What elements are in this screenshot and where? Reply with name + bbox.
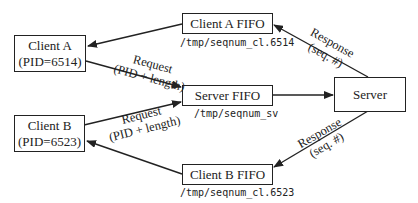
client-a-fifo-path: /tmp/seqnum_cl.6514 xyxy=(180,37,294,48)
client-a-fifo-title: Client A FIFO xyxy=(190,16,264,32)
client-a-title: Client A xyxy=(28,38,72,54)
arrow-clientbfifo-to-clientb xyxy=(87,141,182,174)
client-a-pid: (PID=6514) xyxy=(19,54,82,70)
server-fifo-path: /tmp/seqnum_sv xyxy=(194,108,278,119)
client-b-pid: (PID=6523) xyxy=(18,134,81,150)
client-a-fifo-node: Client A FIFO xyxy=(182,13,273,34)
client-a-node: Client A (PID=6514) xyxy=(14,35,86,72)
client-b-title: Client B xyxy=(28,118,72,134)
server-fifo-title: Server FIFO xyxy=(195,88,260,104)
client-b-fifo-title: Client B FIFO xyxy=(190,167,265,183)
arrow-clientafifo-to-clienta xyxy=(88,24,182,46)
client-b-node: Client B (PID=6523) xyxy=(14,115,85,152)
server-fifo-node: Server FIFO xyxy=(182,85,273,106)
server-title: Server xyxy=(353,87,387,103)
client-b-fifo-path: /tmp/seqnum_cl.6523 xyxy=(180,187,294,198)
client-b-fifo-node: Client B FIFO xyxy=(182,164,273,185)
server-node: Server xyxy=(334,77,406,112)
